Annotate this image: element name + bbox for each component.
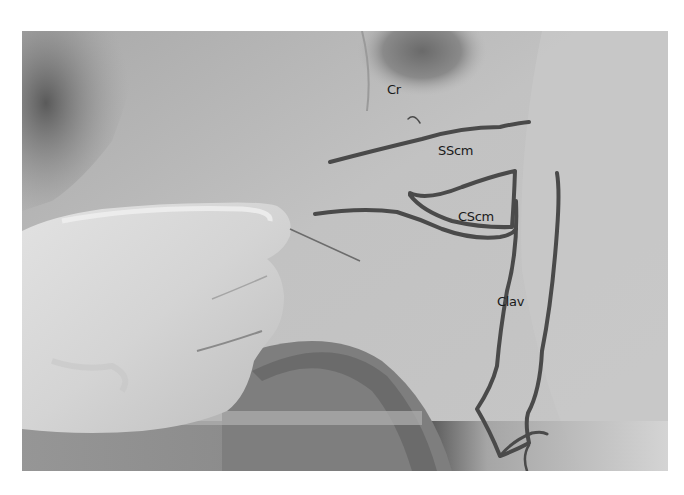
figure-canvas: Cr SScm CScm Clav (0, 0, 684, 495)
label-cscm: CScm (458, 210, 494, 223)
label-sscm: SScm (438, 144, 473, 157)
label-cr: Cr (387, 83, 401, 96)
clinical-photo: Cr SScm CScm Clav (22, 31, 668, 471)
photo-scene (22, 31, 668, 471)
label-clav: Clav (497, 295, 524, 308)
